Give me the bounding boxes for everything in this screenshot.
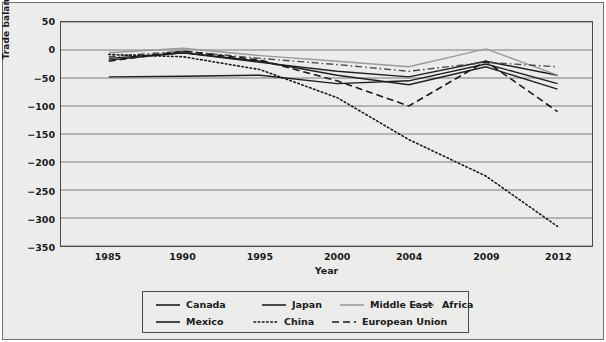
legend-swatch-icon <box>339 300 365 310</box>
legend-label: European Union <box>362 316 447 327</box>
plot-svg <box>61 22 592 246</box>
legend-swatch-icon <box>331 317 357 327</box>
legend-item-china[interactable]: China <box>253 313 314 330</box>
series-line-china <box>109 54 558 226</box>
chart-legend: CanadaJapanMiddle EastAfrica MexicoChina… <box>142 291 469 333</box>
y-tick-label: −100 <box>11 100 55 111</box>
x-tick-label: 1990 <box>153 251 213 262</box>
legend-label: Canada <box>186 299 226 310</box>
x-tick-label: 2000 <box>307 251 367 262</box>
y-tick-label: −150 <box>11 129 55 140</box>
x-tick-label: 2004 <box>379 251 439 262</box>
y-tick-label: 0 <box>11 44 55 55</box>
legend-label: Mexico <box>186 316 223 327</box>
y-tick-label: −200 <box>11 157 55 168</box>
x-tick-label: 1985 <box>78 251 138 262</box>
figure-frame: Trade balance ($ billions) 500−50−100−15… <box>2 2 604 340</box>
x-axis-title: Year <box>60 265 593 276</box>
legend-row: MexicoChinaEuropean Union <box>143 313 468 330</box>
plot-area <box>60 21 593 247</box>
x-tick-label: 2009 <box>456 251 516 262</box>
legend-label: Africa <box>442 299 473 310</box>
legend-swatch-icon <box>253 317 279 327</box>
legend-row: CanadaJapanMiddle EastAfrica <box>143 296 468 313</box>
series-lines <box>109 48 558 226</box>
legend-swatch-icon <box>155 317 181 327</box>
chart-screenshot: Trade balance ($ billions) 500−50−100−15… <box>0 0 606 342</box>
legend-swatch-icon <box>155 300 181 310</box>
y-tick-label: −50 <box>11 72 55 83</box>
y-tick-label: −250 <box>11 185 55 196</box>
legend-label: Japan <box>292 299 322 310</box>
legend-item-africa[interactable]: Africa <box>411 296 473 313</box>
legend-item-canada[interactable]: Canada <box>155 296 226 313</box>
legend-item-japan[interactable]: Japan <box>261 296 322 313</box>
legend-swatch-icon <box>411 300 437 310</box>
y-tick-label: 50 <box>11 16 55 27</box>
legend-label: China <box>284 316 314 327</box>
legend-swatch-icon <box>261 300 287 310</box>
legend-item-mexico[interactable]: Mexico <box>155 313 223 330</box>
legend-item-european-union[interactable]: European Union <box>331 313 447 330</box>
y-tick-label: −350 <box>11 242 55 253</box>
y-tick-label: −300 <box>11 213 55 224</box>
y-axis-tick-labels: 500−50−100−150−200−250−300−350 <box>3 21 55 247</box>
x-tick-label: 1995 <box>230 251 290 262</box>
x-tick-label: 2012 <box>528 251 588 262</box>
series-line-european-union <box>109 51 558 111</box>
